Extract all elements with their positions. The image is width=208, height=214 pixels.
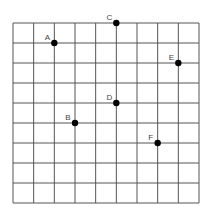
point-b	[72, 120, 78, 126]
point-a	[51, 40, 57, 46]
point-label: A	[45, 33, 51, 42]
point-label: F	[148, 133, 153, 142]
point-e	[175, 60, 181, 66]
point-d	[113, 100, 119, 106]
coordinate-grid-diagram: ACEDBF	[0, 0, 208, 214]
point-c	[113, 20, 119, 26]
point-label: C	[106, 13, 112, 22]
point-label: D	[106, 93, 112, 102]
point-label: B	[65, 113, 70, 122]
point-f	[154, 140, 160, 146]
point-label: E	[169, 53, 174, 62]
